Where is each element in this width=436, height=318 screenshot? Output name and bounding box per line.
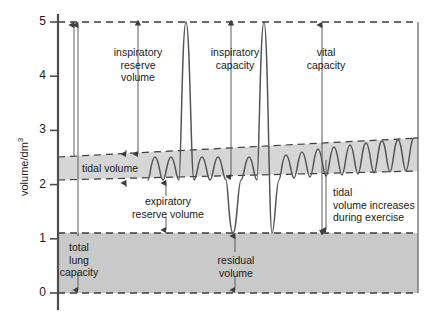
annotation-expiratory-reserve-volume: expiratory reserve volume — [110, 195, 226, 220]
y-tick-label-0: 0 — [26, 285, 46, 299]
y-tick-label-4: 4 — [26, 68, 46, 82]
lung-volume-chart: volume/dm3 5 4 3 2 1 0 inspiratory reser… — [0, 0, 436, 318]
annotation-residual-volume: residual volume — [205, 254, 267, 279]
annotation-tidal-volume-exercise: tidal volume increases during exercise — [333, 186, 433, 224]
y-tick-label-1: 1 — [26, 231, 46, 245]
y-tick-label-2: 2 — [26, 177, 46, 191]
annotation-vital-capacity: vital capacity — [292, 46, 360, 71]
y-axis-label-exponent: 3 — [16, 138, 25, 142]
annotation-inspiratory-reserve-volume: inspiratory reserve volume — [82, 46, 194, 84]
y-tick-label-3: 3 — [26, 122, 46, 136]
y-tick-label-5: 5 — [26, 14, 46, 28]
annotation-total-lung-capacity: total lung capacity — [50, 241, 108, 279]
annotation-tidal-volume: tidal volume — [66, 162, 154, 175]
annotation-inspiratory-capacity: inspiratory capacity — [190, 46, 280, 71]
